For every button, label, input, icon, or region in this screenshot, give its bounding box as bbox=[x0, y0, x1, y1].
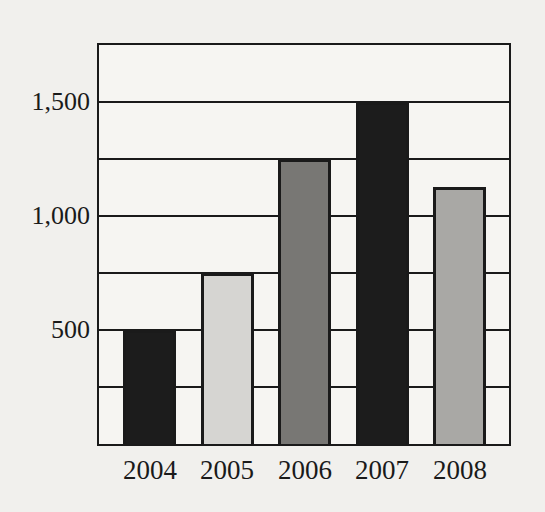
bar-2005 bbox=[201, 273, 254, 444]
bar-2007 bbox=[356, 102, 409, 444]
bar-chart-page: 5001,0001,500 20042005200620072008 bbox=[0, 0, 545, 512]
y-tick-label-1500: 1,500 bbox=[0, 87, 90, 117]
y-tick-label-1000: 1,000 bbox=[0, 201, 90, 231]
bar-2006 bbox=[278, 159, 331, 444]
gridline-1500 bbox=[99, 101, 509, 103]
bar-2004 bbox=[123, 330, 176, 444]
plot-area bbox=[97, 43, 511, 446]
y-tick-label-500: 500 bbox=[0, 315, 90, 345]
bar-2008 bbox=[433, 187, 486, 444]
x-axis-label-2008: 2008 bbox=[410, 455, 510, 485]
